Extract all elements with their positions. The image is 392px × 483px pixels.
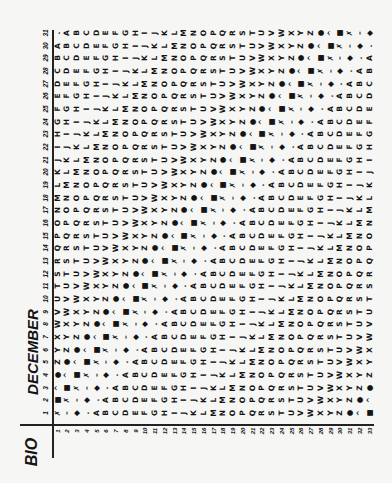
cipher-cell: P xyxy=(142,119,150,125)
cipher-cell: Z xyxy=(171,208,179,213)
cipher-cell: ◆ xyxy=(317,93,325,99)
cipher-cell: ◆ xyxy=(356,43,364,49)
cipher-cell: ■ xyxy=(327,42,335,49)
cipher-cell: D xyxy=(259,232,267,238)
cipher-cell: J xyxy=(122,70,130,73)
cipher-cell: E xyxy=(142,398,150,403)
cipher-cell: B xyxy=(259,207,267,213)
cipher-cell: ✗ xyxy=(171,258,179,264)
cipher-cell: Y xyxy=(239,106,247,111)
cipher-cell: I xyxy=(356,171,364,174)
cipher-cell: E xyxy=(356,119,364,124)
cipher-cell: P xyxy=(83,195,91,201)
cipher-cell: S xyxy=(327,334,335,339)
cipher-cell: Z xyxy=(239,119,247,124)
cipher-cell: ■ xyxy=(278,105,286,112)
cipher-cell: D xyxy=(239,258,247,264)
cipher-cell: X xyxy=(171,182,179,188)
cipher-cell: V xyxy=(259,43,267,49)
cipher-cell: ^ xyxy=(220,169,228,175)
cipher-cell: ◆ xyxy=(83,397,91,403)
cipher-cell: W xyxy=(249,67,257,75)
cipher-cell: S xyxy=(346,309,354,314)
cipher-cell: ● xyxy=(142,258,150,265)
cipher-cell: I xyxy=(288,260,296,263)
cipher-cell: – xyxy=(356,31,364,35)
cipher-cell: E xyxy=(366,106,374,111)
cipher-cell: A xyxy=(239,220,247,226)
cipher-cell: Q xyxy=(259,397,267,403)
cipher-cell: H xyxy=(210,347,218,353)
cipher-cell: J xyxy=(229,348,237,351)
cipher-cell: – xyxy=(73,398,81,402)
cipher-cell: Y xyxy=(337,398,345,403)
cipher-cell: A xyxy=(259,195,267,201)
cipher-cell: . xyxy=(210,247,218,250)
cipher-cell: L xyxy=(54,183,62,188)
cipher-cell: U xyxy=(171,144,179,150)
cipher-cell: C xyxy=(298,170,306,176)
cipher-cell: E xyxy=(278,220,286,225)
cipher-cell: ■ xyxy=(83,359,91,366)
cipher-cell: – xyxy=(103,360,111,364)
cipher-cell: C xyxy=(112,410,120,416)
cipher-cell: D xyxy=(93,30,101,36)
cipher-cell: ● xyxy=(288,68,296,75)
cipher-cell: G xyxy=(112,42,120,48)
row-number: 27 xyxy=(308,428,314,435)
cipher-cell: F xyxy=(151,398,159,403)
cipher-cell: ■ xyxy=(181,232,189,239)
cipher-cell: A xyxy=(356,68,364,74)
cipher-cell: W xyxy=(220,105,228,113)
cipher-cell: V xyxy=(171,157,179,163)
cipher-cell: V xyxy=(181,144,189,150)
cipher-cell: Y xyxy=(181,182,189,187)
cipher-cell: Q xyxy=(249,410,257,416)
cipher-cell: S xyxy=(220,56,228,61)
cipher-cell: H xyxy=(103,68,111,74)
cipher-cell: D xyxy=(171,347,179,353)
cipher-cell: ■ xyxy=(249,143,257,150)
cipher-cell: O xyxy=(239,397,247,403)
cipher-cell: B xyxy=(220,258,228,264)
cipher-cell: S xyxy=(190,94,198,99)
cipher-cell: F xyxy=(278,233,286,238)
cipher-cell: . xyxy=(327,95,335,98)
cipher-cell: O xyxy=(327,283,335,289)
cipher-cell: M xyxy=(161,55,169,62)
cipher-cell: W xyxy=(132,219,140,227)
cipher-cell: P xyxy=(307,322,315,328)
cipher-cell: L xyxy=(268,322,276,327)
cipher-cell: Q xyxy=(181,80,189,86)
cipher-cell: T xyxy=(298,385,306,390)
cipher-cell: Q xyxy=(366,258,374,264)
cipher-cell: O xyxy=(298,321,306,327)
cipher-cell: ● xyxy=(103,308,111,315)
cipher-cell: M xyxy=(132,93,140,100)
cipher-cell: I xyxy=(142,31,150,34)
cipher-cell: Y xyxy=(288,43,296,48)
cipher-cell: ✗ xyxy=(317,68,325,74)
row-number: 21 xyxy=(250,428,256,435)
cipher-cell: D xyxy=(161,359,169,365)
cipher-cell: ✗ xyxy=(142,296,150,302)
cipher-cell: D xyxy=(298,182,306,188)
cipher-cell: K xyxy=(239,347,247,353)
cipher-cell: ■ xyxy=(337,29,345,36)
cipher-cell: . xyxy=(356,57,364,60)
cipher-cell: T xyxy=(278,410,286,415)
cipher-cell: Q xyxy=(268,384,276,390)
row-number: 30 xyxy=(337,428,343,435)
cipher-cell: I xyxy=(54,146,62,149)
cipher-cell: X xyxy=(103,271,111,277)
cipher-cell: K xyxy=(337,220,345,226)
cipher-cell: V xyxy=(132,207,140,213)
cipher-cell: V xyxy=(200,119,208,125)
cipher-cell: B xyxy=(171,321,179,327)
cipher-cell: T xyxy=(307,372,315,377)
cipher-cell: . xyxy=(249,196,257,199)
cipher-cell: . xyxy=(346,69,354,72)
cipher-cell: ■ xyxy=(112,321,120,328)
cipher-cell: Q xyxy=(288,359,296,365)
cipher-cell: – xyxy=(259,158,267,162)
